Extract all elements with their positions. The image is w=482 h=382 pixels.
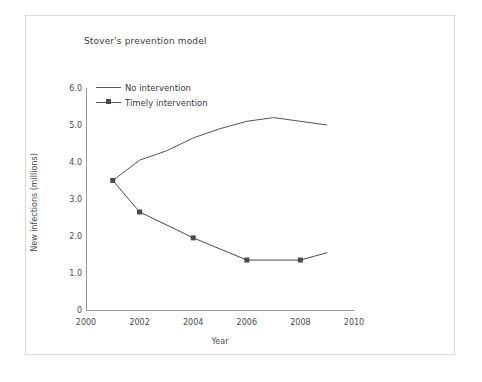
legend-line-swatch-icon xyxy=(96,82,121,93)
data-point-marker xyxy=(110,178,115,183)
series-line xyxy=(113,118,327,181)
plot-area: Stover's prevention model 6.05.04.03.02.… xyxy=(0,0,482,382)
data-point-marker xyxy=(137,209,142,214)
series-layer xyxy=(0,0,482,382)
legend-item-timely-intervention: Timely intervention xyxy=(96,95,226,110)
figure-canvas: Stover's prevention model 6.05.04.03.02.… xyxy=(0,0,482,382)
data-point-marker xyxy=(298,258,303,263)
legend-item-label: No intervention xyxy=(125,83,191,93)
legend-line-marker-swatch-icon xyxy=(96,97,121,108)
data-point-marker xyxy=(191,235,196,240)
chart-legend: No intervention Timely intervention xyxy=(96,80,226,110)
data-point-marker xyxy=(244,258,249,263)
series-line xyxy=(113,181,327,261)
legend-item-label: Timely intervention xyxy=(125,98,208,108)
legend-item-no-intervention: No intervention xyxy=(96,80,226,95)
